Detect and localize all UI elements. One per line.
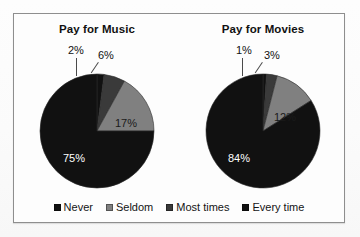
pie-wrap-music (39, 73, 155, 189)
slice-label-never-music: 75% (63, 152, 85, 164)
chart-legend: Never Seldom Most times Every time (14, 201, 344, 213)
legend-item-never: Never (54, 201, 93, 213)
pie-chart-music (39, 73, 155, 189)
leader-line-every-time-movies (242, 58, 243, 76)
slice-label-never-movies: 84% (228, 152, 250, 164)
legend-label-most-times: Most times (176, 201, 229, 213)
legend-swatch-every-time (242, 204, 249, 211)
legend-label-every-time: Every time (252, 201, 304, 213)
chart-title-music: Pay for Music (14, 23, 180, 35)
legend-item-most-times: Most times (166, 201, 229, 213)
chart-pay-for-music: Pay for Music 2% 6% 17% 75% (14, 14, 180, 200)
callout-most-times-music: 6% (98, 49, 114, 61)
legend-swatch-most-times (166, 204, 173, 211)
leader-line-most-times-music (91, 62, 99, 73)
chart-title-movies: Pay for Movies (180, 23, 346, 35)
figure-frame: Pay for Music 2% 6% 17% 75% Pay for Movi… (13, 13, 345, 223)
pie-wrap-movies (205, 73, 321, 189)
legend-swatch-seldom (106, 204, 113, 211)
callout-every-time-music: 2% (68, 44, 84, 56)
legend-item-seldom: Seldom (106, 201, 153, 213)
pie-chart-movies (205, 73, 321, 189)
chart-pay-for-movies: Pay for Movies 1% 3% 12% 84% (180, 14, 346, 200)
leader-line-every-time-music (76, 58, 77, 76)
legend-label-seldom: Seldom (116, 201, 153, 213)
legend-label-never: Never (64, 201, 93, 213)
legend-item-every-time: Every time (242, 201, 304, 213)
legend-swatch-never (54, 204, 61, 211)
slice-label-seldom-music: 17% (115, 117, 137, 129)
callout-every-time-movies: 1% (236, 44, 252, 56)
callout-most-times-movies: 3% (264, 49, 280, 61)
leader-line-most-times-movies (255, 62, 263, 73)
slice-label-seldom-movies: 12% (274, 111, 296, 123)
